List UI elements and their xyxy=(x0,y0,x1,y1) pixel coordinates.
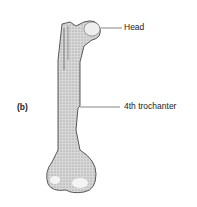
label-head: Head xyxy=(124,23,144,32)
label-4th-trochanter: 4th trochanter xyxy=(124,102,176,111)
condyle-highlight xyxy=(72,178,88,188)
condyle-highlight xyxy=(50,176,60,184)
femur-head xyxy=(84,22,100,36)
panel-label: (b) xyxy=(17,102,28,112)
